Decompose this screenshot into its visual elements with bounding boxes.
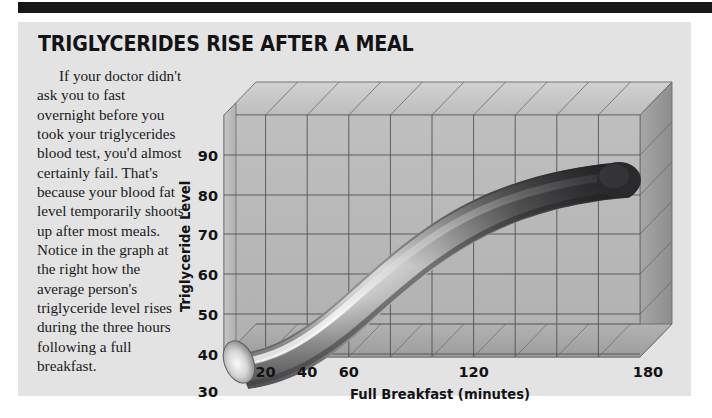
page-title: TRIGLYCERIDES RISE AFTER A MEAL xyxy=(38,32,414,56)
y-axis-ticks: 90 80 70 60 50 40 30 xyxy=(198,148,218,400)
chart-svg: 90 80 70 60 50 40 30 Triglyceride Level … xyxy=(178,62,688,402)
chart-figure: 90 80 70 60 50 40 30 Triglyceride Level … xyxy=(178,62,688,402)
chart-right-face xyxy=(640,82,672,357)
x-tick-180: 180 xyxy=(633,364,663,380)
y-tick-80: 80 xyxy=(198,188,218,204)
y-tick-70: 70 xyxy=(198,227,218,243)
y-tick-30: 30 xyxy=(198,384,218,400)
article-paragraph: If your doctor didn't ask you to fast ov… xyxy=(37,66,184,376)
x-axis-ticks: 20 40 60 120 180 xyxy=(256,364,664,380)
article-panel: TRIGLYCERIDES RISE AFTER A MEAL If your … xyxy=(18,22,691,396)
y-tick-90: 90 xyxy=(198,148,218,164)
y-tick-60: 60 xyxy=(198,267,218,283)
x-axis-title: Full Breakfast (minutes) xyxy=(350,387,530,402)
y-axis-title: Triglyceride Level xyxy=(178,181,193,312)
top-divider-rule xyxy=(18,2,712,13)
chart-left-slab xyxy=(224,103,236,357)
y-tick-50: 50 xyxy=(198,307,218,323)
tube-right-cap-sheen xyxy=(599,164,629,188)
x-tick-60: 60 xyxy=(339,364,359,380)
x-tick-40: 40 xyxy=(297,364,317,380)
page-root: TRIGLYCERIDES RISE AFTER A MEAL If your … xyxy=(0,0,712,418)
article-body: If your doctor didn't ask you to fast ov… xyxy=(37,66,184,376)
x-tick-20: 20 xyxy=(256,364,276,380)
y-tick-40: 40 xyxy=(198,347,218,363)
x-tick-120: 120 xyxy=(458,364,488,380)
